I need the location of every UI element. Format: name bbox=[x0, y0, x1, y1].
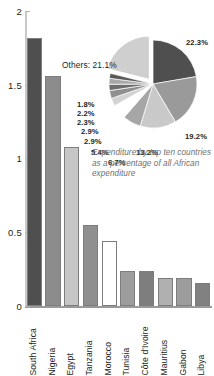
bar bbox=[158, 278, 173, 306]
y-tick-label-1_5: 1.5 bbox=[8, 81, 22, 91]
pie-label-19_2: 19.2% bbox=[185, 133, 207, 141]
bar bbox=[139, 271, 154, 306]
y-tick-mark bbox=[25, 306, 30, 307]
x-tick-label: Morocco bbox=[104, 342, 113, 376]
pie-label-2_2: 2.2% bbox=[77, 110, 95, 118]
bar bbox=[45, 76, 60, 306]
x-tick-label: Tunisia bbox=[123, 348, 132, 376]
x-tick-label: South Africa bbox=[29, 328, 38, 376]
bar bbox=[120, 271, 135, 306]
pie-slice bbox=[107, 36, 150, 80]
x-tick-label: Mauritius bbox=[160, 340, 169, 376]
pie-caption: Expenditure by top ten countries as a pe… bbox=[92, 148, 214, 180]
x-tick-label: Côte d'Ivoire bbox=[142, 326, 151, 375]
bar bbox=[27, 38, 42, 306]
y-tick-label-1: 1 bbox=[16, 154, 22, 164]
pie-label-others: Others: 21.1% bbox=[62, 60, 117, 70]
x-tick-label: Libya bbox=[198, 355, 207, 376]
pie-label-1_8: 1.8% bbox=[77, 101, 95, 109]
bar bbox=[102, 241, 117, 306]
x-tick-label: Nigeria bbox=[48, 348, 57, 376]
pie-chart-inset: Others: 21.1% 1.8% 2.2% 2.3% 2.9% 2.9% 5… bbox=[60, 28, 214, 180]
y-axis-labels: 2 1.5 1 0.5 0 bbox=[0, 0, 22, 369]
y-tick-label-2: 2 bbox=[16, 7, 22, 17]
bar bbox=[176, 278, 191, 306]
pie-label-2_3: 2.3% bbox=[77, 119, 95, 127]
x-axis-labels: South AfricaNigeriaEgyptTanzaniaMoroccoT… bbox=[25, 309, 212, 369]
x-tick-label: Gabon bbox=[179, 349, 188, 375]
x-axis-line bbox=[25, 306, 212, 308]
bar bbox=[195, 283, 210, 306]
pie-wrap bbox=[104, 35, 202, 133]
y-tick-label-0_5: 0.5 bbox=[8, 228, 22, 238]
pie-slices bbox=[104, 35, 202, 133]
x-tick-label: Tanzania bbox=[85, 340, 94, 375]
bar bbox=[83, 225, 98, 306]
pie-label-2_9b: 2.9% bbox=[84, 138, 102, 146]
pie-label-22_3: 22.3% bbox=[186, 39, 208, 47]
y-tick-label-0: 0 bbox=[16, 302, 22, 312]
pie-label-2_9a: 2.9% bbox=[81, 128, 99, 136]
x-tick-label: Egypt bbox=[67, 353, 76, 375]
